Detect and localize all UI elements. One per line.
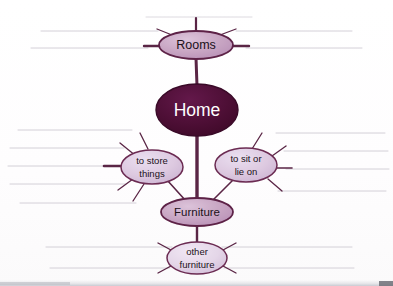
node-other-furniture-label-line2: furniture [180,259,215,270]
node-furniture[interactable]: Furniture [161,198,233,226]
mind-map-diagram: Rooms Home to store things to sit or lie… [0,0,393,286]
node-home-label: Home [174,100,221,120]
node-rooms[interactable]: Rooms [159,31,233,59]
node-home[interactable]: Home [156,84,238,136]
scan-edge-artifact-right [379,281,393,286]
node-other-furniture[interactable]: other furniture [167,242,227,274]
worksheet-sheet: Rooms Home to store things to sit or lie… [0,0,393,286]
node-to-sit-or-lie-on-label-line2: lie on [235,166,258,177]
connector-store-furniture [167,180,186,201]
node-to-store-things[interactable]: to store things [121,150,183,184]
node-other-furniture-label-line1: other [186,246,208,257]
node-to-sit-or-lie-on-label-line1: to sit or [230,153,261,164]
scan-edge-artifact-left [0,282,70,285]
connector-sit-furniture [212,179,234,201]
node-to-store-things-label-line2: things [139,168,165,179]
node-furniture-label: Furniture [174,206,220,218]
node-to-sit-or-lie-on[interactable]: to sit or lie on [215,148,277,182]
node-to-store-things-label-line1: to store [136,155,168,166]
connector-rooms-home [196,58,197,86]
node-rooms-label: Rooms [176,38,216,52]
